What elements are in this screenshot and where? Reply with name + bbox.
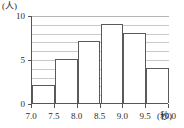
bar <box>146 68 169 103</box>
x-axis-tick-mark <box>100 104 101 108</box>
x-axis-tick-mark <box>122 104 123 108</box>
x-axis-tick-label: 8.5 <box>88 112 112 121</box>
x-axis-tick-label: 7.0 <box>19 112 43 121</box>
x-axis-tick-mark <box>31 104 32 108</box>
x-axis-tick-label: 9.5 <box>133 112 157 121</box>
bar <box>101 24 124 103</box>
x-axis-tick-mark <box>168 104 169 108</box>
plot-area <box>31 16 168 104</box>
histogram-chart: (人) (秒) 0510 7.07.58.08.59.09.510.0 <box>0 0 184 128</box>
bar <box>78 41 101 103</box>
y-axis-tick-label: 0 <box>3 100 25 109</box>
bar <box>55 59 78 103</box>
bar <box>123 33 146 103</box>
gridline <box>32 16 169 17</box>
x-axis-tick-label: 10.0 <box>156 112 180 121</box>
y-axis-tick-label: 10 <box>3 12 25 21</box>
x-axis-tick-mark <box>54 104 55 108</box>
x-axis-tick-label: 9.0 <box>110 112 134 121</box>
y-axis-tick-label: 5 <box>3 56 25 65</box>
x-axis-tick-mark <box>77 104 78 108</box>
bar <box>32 85 55 103</box>
y-axis-unit-label: (人) <box>2 2 17 11</box>
x-axis-tick-label: 8.0 <box>65 112 89 121</box>
x-axis-tick-label: 7.5 <box>42 112 66 121</box>
x-axis-tick-mark <box>145 104 146 108</box>
